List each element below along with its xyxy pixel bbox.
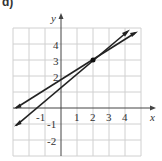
y-axis-arrow-icon [59,13,64,19]
x-tick-label: 2 [90,112,96,123]
x-tick-label: 4 [122,112,128,123]
y-tick-label: -1 [47,119,56,130]
y-tick-label: 3 [53,56,59,67]
x-axis-arrow-icon [150,106,156,111]
intersection-point [91,58,96,63]
x-tick-label: 1 [74,112,80,123]
x-axis-label: x [150,112,155,123]
y-tick-label: -2 [47,136,56,147]
y-axis-label: y [51,13,56,24]
y-tick-label: 4 [53,40,59,51]
coordinate-plane [0,0,162,161]
y-tick-label: 2 [53,72,59,83]
x-tick-label: -1 [36,112,45,123]
x-tick-label: 3 [106,112,112,123]
